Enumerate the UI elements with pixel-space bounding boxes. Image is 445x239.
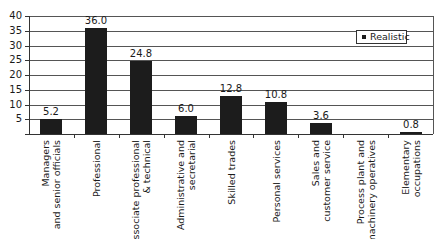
bar-value-label: 6.0 — [166, 104, 206, 114]
y-tick-label: 20 — [0, 70, 22, 80]
bar-chart: 510152025303540 5.236.024.86.012.810.83.… — [0, 0, 445, 239]
bar — [310, 123, 332, 134]
x-tick-label: Process plant and machinery operatives — [344, 140, 388, 235]
bar — [220, 96, 242, 134]
bar — [400, 132, 422, 134]
x-tick-mark — [253, 134, 254, 138]
x-tick-label: Personal services — [254, 140, 298, 235]
bar — [175, 116, 197, 134]
y-tick-label: 25 — [0, 55, 22, 65]
x-tick-mark — [119, 134, 120, 138]
bar-value-label: 12.8 — [211, 84, 251, 94]
bar-value-label: 3.6 — [301, 111, 341, 121]
x-tick-mark — [209, 134, 210, 138]
legend-swatch-icon — [362, 35, 366, 39]
legend: Realistic — [356, 30, 407, 44]
x-tick-label: Managers and senior officials — [29, 140, 73, 235]
legend-label: Realistic — [370, 31, 410, 43]
plot-right-border — [433, 16, 434, 134]
x-tick-label: Administrative and secretarial — [164, 140, 208, 235]
x-tick-mark — [343, 134, 344, 138]
x-tick-label: Sales and customer service — [299, 140, 343, 235]
bar — [40, 119, 62, 134]
bar-value-label: 5.2 — [31, 107, 71, 117]
bar-value-label: 36.0 — [76, 16, 116, 26]
bar-value-label: 24.8 — [121, 49, 161, 59]
x-tick-mark — [74, 134, 75, 138]
y-axis — [29, 16, 30, 134]
bar-value-label: 0.8 — [391, 120, 431, 130]
x-tick-label: Professional — [74, 140, 118, 235]
bar — [85, 28, 107, 134]
y-tick-label: 30 — [0, 41, 22, 51]
y-tick-label: 35 — [0, 26, 22, 36]
bar — [130, 61, 152, 134]
y-tick-label: 10 — [0, 100, 22, 110]
y-tick-label: 5 — [0, 114, 22, 124]
x-tick-mark — [298, 134, 299, 138]
x-tick-label: Skilled trades — [209, 140, 253, 235]
x-tick-mark — [388, 134, 389, 138]
bar-value-label: 10.8 — [256, 90, 296, 100]
x-tick-label: Associate professional & technical — [119, 140, 163, 235]
x-tick-label: Elementary occupations — [389, 140, 433, 235]
y-tick-label: 15 — [0, 85, 22, 95]
x-tick-mark — [164, 134, 165, 138]
x-axis — [25, 134, 433, 135]
y-tick-label: 40 — [0, 11, 22, 21]
bar — [265, 102, 287, 134]
